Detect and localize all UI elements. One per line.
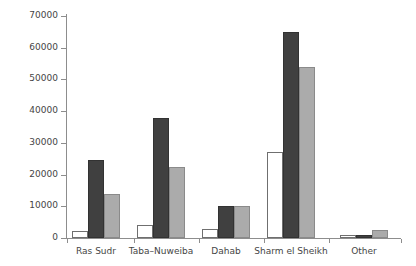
bar: [234, 206, 250, 238]
x-axis-line: [67, 238, 401, 239]
y-tick-label-wrap: 40000: [0, 106, 58, 115]
bar: [88, 160, 104, 238]
x-tick-label: Ras Sudr: [76, 246, 116, 257]
y-tick-label-wrap: 50000: [0, 74, 58, 83]
plot-area: [67, 16, 401, 238]
y-tick-label: 10000: [0, 201, 58, 210]
bar-group: [72, 16, 120, 238]
x-tick-mark: [199, 239, 200, 243]
bar: [283, 32, 299, 238]
bar-chart: Hotel rooms 0100002000030000400005000060…: [0, 0, 416, 266]
x-tick-label: Dahab: [211, 246, 240, 257]
bar: [356, 235, 372, 238]
y-tick-label: 30000: [0, 138, 58, 147]
bar: [218, 206, 234, 238]
y-tick-label-wrap: 60000: [0, 43, 58, 52]
x-tick-mark: [264, 239, 265, 243]
y-tick-label-wrap: 70000: [0, 11, 58, 20]
y-tick-label-wrap: 10000: [0, 201, 58, 210]
y-tick-label: 0: [0, 233, 58, 242]
y-tick-label: 40000: [0, 106, 58, 115]
x-tick-label: Taba–Nuweiba: [129, 246, 193, 257]
x-tick-label: Sharm el Sheikh: [254, 246, 327, 257]
bar: [137, 225, 153, 238]
bar: [340, 235, 356, 238]
x-tick-mark: [401, 239, 402, 243]
bar-group: [340, 16, 388, 238]
bar-group: [137, 16, 185, 238]
y-tick-label: 60000: [0, 43, 58, 52]
y-tick-label-wrap: 30000: [0, 138, 58, 147]
x-tick-mark: [134, 239, 135, 243]
bar: [153, 118, 169, 238]
bar: [104, 194, 120, 238]
bar-group: [202, 16, 250, 238]
x-tick-mark: [67, 239, 68, 243]
bar: [267, 152, 283, 238]
y-tick-label: 50000: [0, 74, 58, 83]
y-tick-label: 70000: [0, 11, 58, 20]
y-tick-label: 20000: [0, 170, 58, 179]
bar: [169, 167, 185, 238]
y-tick-label-wrap: 0: [0, 233, 58, 242]
y-tick-label-wrap: 20000: [0, 170, 58, 179]
bar: [202, 229, 218, 238]
bar: [72, 231, 88, 238]
bar: [372, 230, 388, 238]
x-tick-label: Other: [351, 246, 377, 257]
bar-group: [267, 16, 315, 238]
bar: [299, 67, 315, 238]
x-tick-mark: [329, 239, 330, 243]
